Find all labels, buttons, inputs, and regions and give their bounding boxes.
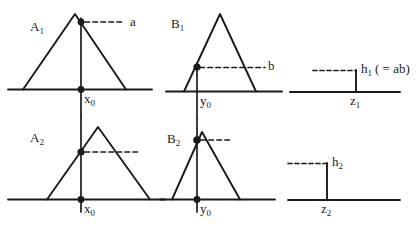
b2-membership-point (193, 136, 201, 144)
label-a2-x0: x0 (84, 202, 95, 215)
label-a1-x0: x0 (84, 92, 95, 105)
label-z1-h1: h1( = ab) (361, 62, 410, 75)
diagram-canvas (0, 0, 418, 233)
label-z2-h2: h2 (332, 155, 343, 168)
label-z2-z2: z2 (321, 202, 331, 215)
label-b2-y0: y0 (200, 202, 211, 215)
label-z1-z1: z1 (350, 94, 360, 107)
label-b1-value-b: b (268, 59, 275, 72)
a2-membership-point (77, 148, 84, 155)
fuzzy-inference-diagram: A1 a x0 B1 b y0 h1( = ab) z1 A2 x0 B2 y0… (0, 0, 418, 233)
a2-triangle (47, 127, 150, 200)
b1-triangle (184, 14, 256, 92)
label-b1: B1 (171, 17, 184, 30)
label-a1-value-a: a (130, 15, 136, 28)
label-a2: A2 (30, 131, 44, 144)
label-b1-y0: y0 (200, 94, 211, 107)
label-a1: A1 (30, 20, 44, 33)
b2-triangle (172, 132, 240, 200)
a1-membership-point (78, 19, 85, 26)
label-b2: B2 (167, 132, 180, 145)
